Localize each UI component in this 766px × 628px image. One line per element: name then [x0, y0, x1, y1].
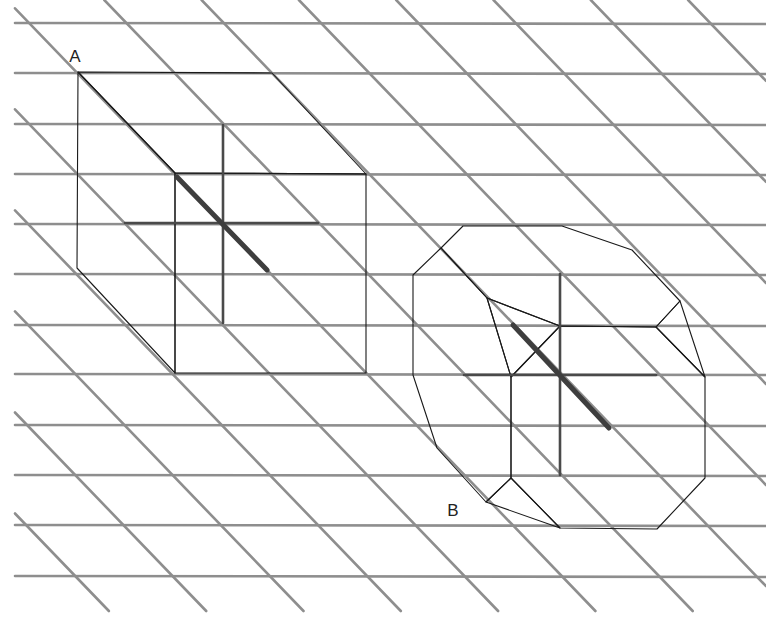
- horizontal-grid-lines: [15, 23, 766, 577]
- grid-line-diagonal: [591, 0, 766, 182]
- grid-line-horizontal: [15, 475, 766, 476]
- grid-line-diagonal: [15, 8, 595, 611]
- grid-line-horizontal: [15, 174, 766, 175]
- grid-line-horizontal: [15, 425, 766, 426]
- truncated-bottom-left-corner-face: [486, 478, 560, 528]
- grid-line-horizontal: [15, 73, 766, 74]
- diagonal-grid-lines: [15, 0, 766, 611]
- grid-line-diagonal: [104, 0, 692, 611]
- grid-line-diagonal: [15, 109, 498, 611]
- grid-line-diagonal: [15, 210, 401, 611]
- grid-line-diagonal: [494, 0, 766, 283]
- grid-line-diagonal: [688, 0, 766, 81]
- grid-line-diagonal: [15, 413, 206, 612]
- label-b: B: [447, 501, 458, 520]
- grid-line-horizontal: [15, 525, 766, 526]
- grid-line-horizontal: [15, 274, 766, 275]
- grid-line-diagonal: [15, 514, 109, 612]
- diagram-canvas: A B: [0, 0, 766, 628]
- grid-line-horizontal: [15, 576, 766, 577]
- label-a: A: [69, 47, 81, 66]
